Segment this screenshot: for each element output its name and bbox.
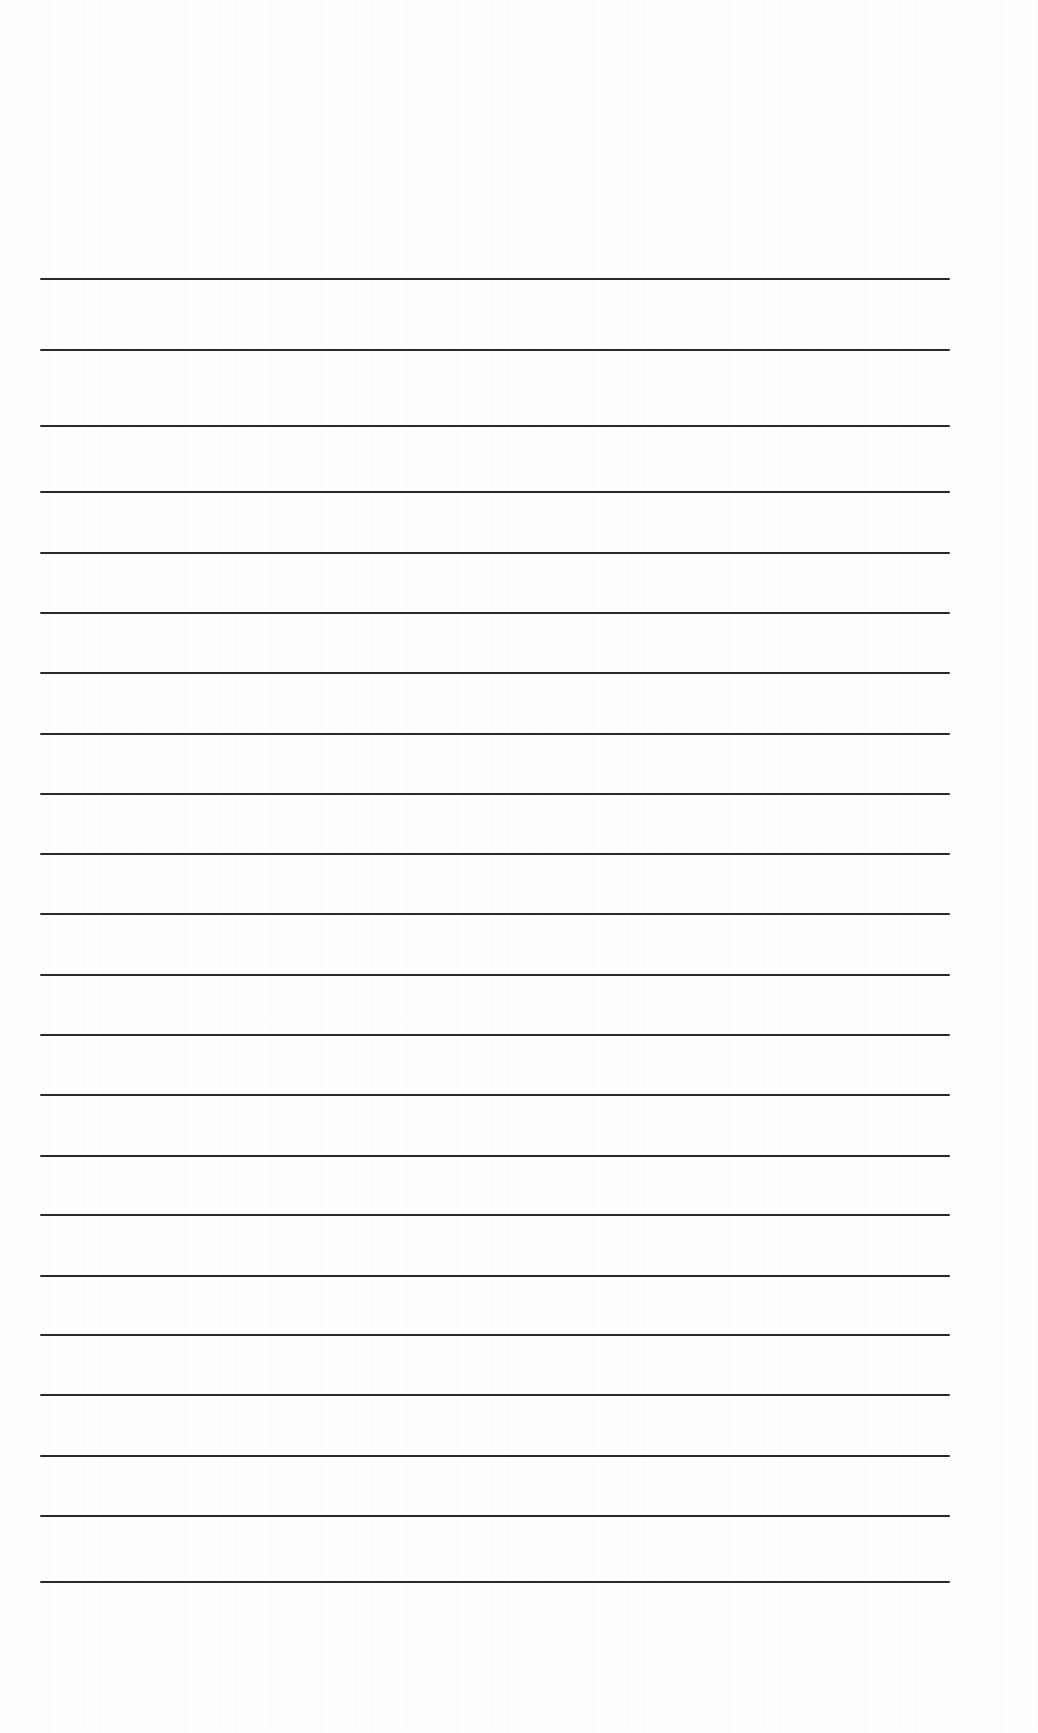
ruled-line [40, 425, 950, 427]
ruled-line [40, 974, 950, 976]
ruled-line [40, 278, 950, 280]
bleed-through-texture [0, 0, 1038, 1733]
ruled-line [40, 1455, 950, 1457]
ruled-line [40, 853, 950, 855]
ruled-line [40, 1034, 950, 1036]
ruled-line [40, 491, 950, 493]
ruled-line [40, 1094, 950, 1096]
ruled-line [40, 552, 950, 554]
ruled-line [40, 1581, 950, 1583]
ruled-line [40, 793, 950, 795]
ruled-line [40, 349, 950, 351]
ruled-line [40, 1394, 950, 1396]
ruled-line [40, 1214, 950, 1216]
ruled-line [40, 1155, 950, 1157]
ruled-line [40, 1334, 950, 1336]
ruled-line [40, 672, 950, 674]
ruled-line [40, 913, 950, 915]
lined-page [0, 0, 1038, 1733]
ruled-line [40, 1515, 950, 1517]
ruled-line [40, 612, 950, 614]
ruled-line [40, 1275, 950, 1277]
ruled-line [40, 733, 950, 735]
